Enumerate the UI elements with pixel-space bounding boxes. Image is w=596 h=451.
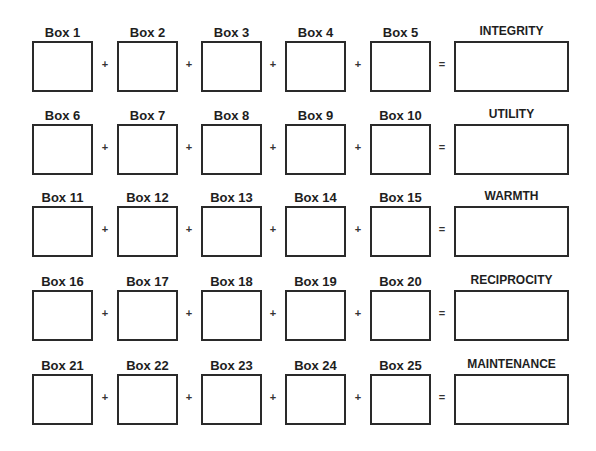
score-row-integrity: Box 1 + Box 2 + Box 3 + Box 4 + Box 5 = … — [0, 26, 596, 96]
box-11-label: Box 11 — [32, 191, 93, 205]
box-14-label: Box 14 — [285, 191, 346, 205]
score-row-maintenance: Box 21 + Box 22 + Box 23 + Box 24 + Box … — [0, 359, 596, 429]
box-10-field[interactable] — [370, 124, 431, 175]
box-1-field[interactable] — [32, 41, 93, 92]
box-16-field[interactable] — [32, 290, 93, 341]
box-17-field[interactable] — [117, 290, 178, 341]
box-1-label: Box 1 — [32, 26, 93, 40]
warmth-total-field[interactable] — [454, 206, 569, 257]
box-15-label: Box 15 — [370, 191, 431, 205]
integrity-total-field[interactable] — [454, 41, 569, 92]
box-22-label: Box 22 — [117, 359, 178, 373]
plus-sign: + — [183, 223, 195, 235]
box-21-label: Box 21 — [32, 359, 93, 373]
plus-sign: + — [267, 58, 279, 70]
box-3-field[interactable] — [201, 41, 262, 92]
box-20-label: Box 20 — [370, 275, 431, 289]
equals-sign: = — [436, 141, 448, 153]
box-6-field[interactable] — [32, 124, 93, 175]
plus-sign: + — [183, 307, 195, 319]
plus-sign: + — [99, 141, 111, 153]
box-13-label: Box 13 — [201, 191, 262, 205]
box-4-field[interactable] — [285, 41, 346, 92]
box-25-field[interactable] — [370, 374, 431, 425]
box-6-label: Box 6 — [32, 109, 93, 123]
box-7-field[interactable] — [117, 124, 178, 175]
reciprocity-label: RECIPROCITY — [454, 273, 569, 287]
box-8-label: Box 8 — [201, 109, 262, 123]
warmth-label: WARMTH — [454, 189, 569, 203]
box-23-field[interactable] — [201, 374, 262, 425]
plus-sign: + — [267, 141, 279, 153]
plus-sign: + — [183, 141, 195, 153]
maintenance-total-field[interactable] — [454, 374, 569, 425]
plus-sign: + — [99, 307, 111, 319]
plus-sign: + — [352, 223, 364, 235]
box-12-field[interactable] — [117, 206, 178, 257]
score-row-reciprocity: Box 16 + Box 17 + Box 18 + Box 19 + Box … — [0, 275, 596, 345]
box-10-label: Box 10 — [370, 109, 431, 123]
score-row-warmth: Box 11 + Box 12 + Box 13 + Box 14 + Box … — [0, 191, 596, 261]
box-25-label: Box 25 — [370, 359, 431, 373]
equals-sign: = — [436, 307, 448, 319]
utility-label: UTILITY — [454, 107, 569, 121]
box-19-label: Box 19 — [285, 275, 346, 289]
box-19-field[interactable] — [285, 290, 346, 341]
integrity-label: INTEGRITY — [454, 24, 569, 38]
box-21-field[interactable] — [32, 374, 93, 425]
box-24-field[interactable] — [285, 374, 346, 425]
box-5-label: Box 5 — [370, 26, 431, 40]
equals-sign: = — [436, 58, 448, 70]
box-24-label: Box 24 — [285, 359, 346, 373]
box-5-field[interactable] — [370, 41, 431, 92]
box-2-label: Box 2 — [117, 26, 178, 40]
box-13-field[interactable] — [201, 206, 262, 257]
plus-sign: + — [99, 391, 111, 403]
plus-sign: + — [183, 391, 195, 403]
equals-sign: = — [436, 391, 448, 403]
plus-sign: + — [267, 307, 279, 319]
box-18-field[interactable] — [201, 290, 262, 341]
score-worksheet: Box 1 + Box 2 + Box 3 + Box 4 + Box 5 = … — [0, 0, 596, 451]
box-14-field[interactable] — [285, 206, 346, 257]
box-9-label: Box 9 — [285, 109, 346, 123]
plus-sign: + — [352, 141, 364, 153]
maintenance-label: MAINTENANCE — [454, 357, 569, 371]
plus-sign: + — [183, 58, 195, 70]
box-7-label: Box 7 — [117, 109, 178, 123]
reciprocity-total-field[interactable] — [454, 290, 569, 341]
box-18-label: Box 18 — [201, 275, 262, 289]
equals-sign: = — [436, 223, 448, 235]
box-12-label: Box 12 — [117, 191, 178, 205]
box-4-label: Box 4 — [285, 26, 346, 40]
box-22-field[interactable] — [117, 374, 178, 425]
box-3-label: Box 3 — [201, 26, 262, 40]
plus-sign: + — [267, 391, 279, 403]
box-8-field[interactable] — [201, 124, 262, 175]
box-23-label: Box 23 — [201, 359, 262, 373]
box-2-field[interactable] — [117, 41, 178, 92]
box-11-field[interactable] — [32, 206, 93, 257]
utility-total-field[interactable] — [454, 124, 569, 175]
box-16-label: Box 16 — [32, 275, 93, 289]
plus-sign: + — [352, 58, 364, 70]
box-9-field[interactable] — [285, 124, 346, 175]
score-row-utility: Box 6 + Box 7 + Box 8 + Box 9 + Box 10 =… — [0, 109, 596, 179]
plus-sign: + — [99, 223, 111, 235]
plus-sign: + — [267, 223, 279, 235]
box-17-label: Box 17 — [117, 275, 178, 289]
box-15-field[interactable] — [370, 206, 431, 257]
plus-sign: + — [352, 307, 364, 319]
plus-sign: + — [352, 391, 364, 403]
box-20-field[interactable] — [370, 290, 431, 341]
plus-sign: + — [99, 58, 111, 70]
